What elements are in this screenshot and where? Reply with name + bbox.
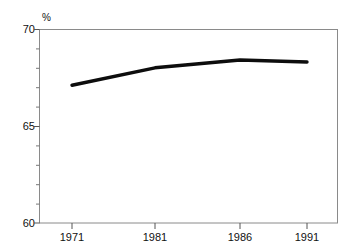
plot-frame — [40, 30, 338, 224]
y-axis-major-ticks — [34, 30, 40, 224]
plot-area — [0, 0, 348, 249]
x-axis-ticks — [72, 223, 307, 229]
data-line-series — [72, 60, 307, 85]
chart-figure: % 70 65 60 1971 1981 1986 1991 — [0, 0, 348, 249]
